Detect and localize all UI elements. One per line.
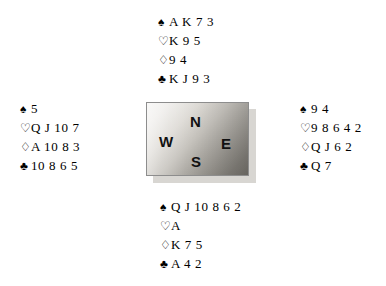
hand-east: ♠9 4 ♡9 8 6 4 2 ♢Q J 6 2 ♣Q 7 (300, 99, 362, 175)
west-diamonds-cards: A 10 8 3 (31, 137, 80, 156)
compass-label-south: S (191, 154, 201, 169)
west-spades-cards: 5 (31, 99, 38, 118)
spade-icon: ♠ (300, 100, 311, 119)
south-clubs-line: ♣A 4 2 (160, 254, 241, 273)
north-hearts-line: ♡K 9 5 (158, 31, 214, 50)
compass-label-east: E (221, 136, 231, 151)
heart-icon: ♡ (158, 32, 169, 51)
heart-icon: ♡ (20, 119, 31, 138)
south-spades-cards: Q J 10 8 6 2 (171, 197, 241, 216)
diamond-icon: ♢ (158, 51, 169, 70)
west-spades-line: ♠5 (20, 99, 80, 118)
diamond-icon: ♢ (20, 138, 31, 157)
hand-south: ♠Q J 10 8 6 2 ♡A ♢K 7 5 ♣A 4 2 (160, 197, 241, 273)
spade-icon: ♠ (158, 13, 169, 32)
east-hearts-cards: 9 8 6 4 2 (311, 118, 362, 137)
south-spades-line: ♠Q J 10 8 6 2 (160, 197, 241, 216)
diamond-icon: ♢ (160, 236, 171, 255)
south-hearts-cards: A (171, 216, 181, 235)
spade-icon: ♠ (20, 100, 31, 119)
club-icon: ♣ (160, 255, 171, 274)
spade-icon: ♠ (160, 198, 171, 217)
bridge-deal-diagram: ♠A K 7 3 ♡K 9 5 ♢9 4 ♣K J 9 3 ♠5 ♡Q J 10… (0, 0, 386, 286)
south-clubs-cards: A 4 2 (171, 254, 202, 273)
club-icon: ♣ (20, 157, 31, 176)
east-diamonds-cards: Q J 6 2 (311, 137, 352, 156)
compass-box-wrapper: N W E S (146, 102, 249, 176)
hand-north: ♠A K 7 3 ♡K 9 5 ♢9 4 ♣K J 9 3 (158, 12, 214, 88)
diamond-icon: ♢ (300, 138, 311, 157)
hand-west: ♠5 ♡Q J 10 7 ♢A 10 8 3 ♣10 8 6 5 (20, 99, 80, 175)
heart-icon: ♡ (300, 119, 311, 138)
east-diamonds-line: ♢Q J 6 2 (300, 137, 362, 156)
south-diamonds-line: ♢K 7 5 (160, 235, 241, 254)
north-diamonds-cards: 9 4 (169, 50, 187, 69)
west-diamonds-line: ♢A 10 8 3 (20, 137, 80, 156)
south-diamonds-cards: K 7 5 (171, 235, 203, 254)
north-clubs-line: ♣K J 9 3 (158, 69, 214, 88)
north-spades-cards: A K 7 3 (169, 12, 214, 31)
west-hearts-line: ♡Q J 10 7 (20, 118, 80, 137)
west-clubs-line: ♣10 8 6 5 (20, 156, 80, 175)
heart-icon: ♡ (160, 217, 171, 236)
north-hearts-cards: K 9 5 (169, 31, 201, 50)
west-hearts-cards: Q J 10 7 (31, 118, 80, 137)
compass-box: N W E S (146, 102, 249, 176)
east-clubs-line: ♣Q 7 (300, 156, 362, 175)
north-spades-line: ♠A K 7 3 (158, 12, 214, 31)
east-spades-line: ♠9 4 (300, 99, 362, 118)
north-diamonds-line: ♢9 4 (158, 50, 214, 69)
south-hearts-line: ♡A (160, 216, 241, 235)
compass-label-north: N (190, 114, 201, 129)
north-clubs-cards: K J 9 3 (169, 69, 210, 88)
east-spades-cards: 9 4 (311, 99, 329, 118)
club-icon: ♣ (300, 157, 311, 176)
compass-label-west: W (159, 134, 173, 149)
club-icon: ♣ (158, 70, 169, 89)
east-hearts-line: ♡9 8 6 4 2 (300, 118, 362, 137)
east-clubs-cards: Q 7 (311, 156, 332, 175)
west-clubs-cards: 10 8 6 5 (31, 156, 78, 175)
